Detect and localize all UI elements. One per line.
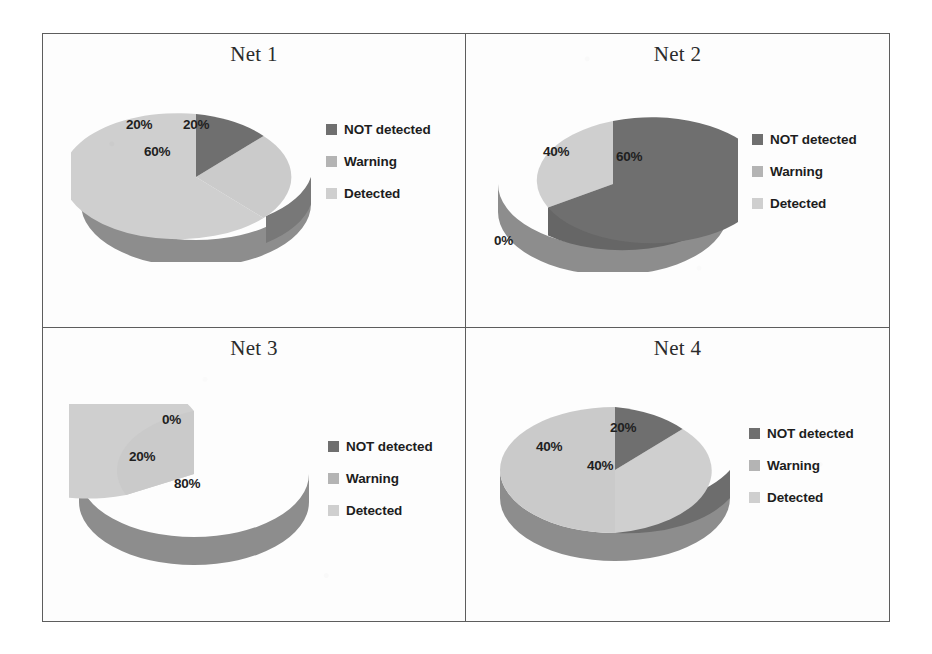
pie-label-detected: 40% [587, 458, 613, 473]
legend-net-1: NOT detected Warning Detected [326, 122, 431, 218]
legend-label: Detected [770, 196, 826, 211]
legend-item-detected[interactable]: Detected [752, 196, 857, 211]
pie-chart-net-4: 20% 40% 40% [490, 392, 740, 562]
pie-label-warning: 20% [129, 449, 155, 464]
panel-title-net-4: Net 4 [466, 336, 889, 361]
legend-item-warning[interactable]: Warning [752, 164, 857, 179]
legend-label: NOT detected [346, 439, 433, 454]
legend-swatch-icon [326, 124, 337, 135]
legend-swatch-icon [326, 156, 337, 167]
pie-label-detected: 0% [494, 233, 513, 248]
panel-net-2: Net 2 60% 40% 0% NOT detected [466, 34, 889, 328]
panel-net-1: Net 1 20% 20% 60% [43, 34, 466, 328]
legend-label: Warning [767, 458, 820, 473]
legend-item-warning[interactable]: Warning [749, 458, 854, 473]
pie-label-warning: 40% [543, 144, 569, 159]
panel-net-4: Net 4 20% 40% 40% [466, 328, 889, 622]
pie-svg-net-2 [488, 102, 738, 272]
legend-item-detected[interactable]: Detected [328, 503, 433, 518]
pie-label-warning: 20% [126, 117, 152, 132]
legend-swatch-icon [752, 166, 763, 177]
panel-title-net-3: Net 3 [43, 336, 465, 361]
legend-swatch-icon [328, 505, 339, 516]
pie-label-not-detected: 60% [616, 149, 642, 164]
legend-label: Warning [346, 471, 399, 486]
pie-label-not-detected: 20% [183, 117, 209, 132]
legend-net-2: NOT detected Warning Detected [752, 132, 857, 228]
legend-label: Warning [344, 154, 397, 169]
legend-item-not-detected[interactable]: NOT detected [749, 426, 854, 441]
pie-chart-net-3: 0% 20% 80% [69, 404, 319, 574]
legend-net-4: NOT detected Warning Detected [749, 426, 854, 522]
chart-area-net-1: 20% 20% 60% NOT detected Warning Detecte… [43, 70, 465, 327]
legend-swatch-icon [752, 198, 763, 209]
legend-swatch-icon [326, 188, 337, 199]
figure-frame: Net 1 20% 20% 60% [42, 33, 890, 622]
panel-title-net-1: Net 1 [43, 42, 465, 67]
legend-item-not-detected[interactable]: NOT detected [328, 439, 433, 454]
legend-label: Detected [344, 186, 400, 201]
legend-swatch-icon [752, 134, 763, 145]
legend-item-not-detected[interactable]: NOT detected [326, 122, 431, 137]
legend-label: Detected [767, 490, 823, 505]
legend-swatch-icon [328, 473, 339, 484]
legend-item-warning[interactable]: Warning [328, 471, 433, 486]
pie-chart-net-2: 60% 40% 0% [488, 102, 738, 272]
legend-label: Warning [770, 164, 823, 179]
pie-label-detected: 60% [144, 144, 170, 159]
pie-label-warning: 40% [536, 439, 562, 454]
legend-item-detected[interactable]: Detected [326, 186, 431, 201]
legend-swatch-icon [328, 441, 339, 452]
legend-item-not-detected[interactable]: NOT detected [752, 132, 857, 147]
legend-item-warning[interactable]: Warning [326, 154, 431, 169]
legend-label: NOT detected [770, 132, 857, 147]
chart-area-net-2: 60% 40% 0% NOT detected Warning Detected [466, 70, 889, 327]
legend-item-detected[interactable]: Detected [749, 490, 854, 505]
panel-title-net-2: Net 2 [466, 42, 889, 67]
legend-net-3: NOT detected Warning Detected [328, 439, 433, 535]
pie-label-not-detected: 20% [610, 420, 636, 435]
pie-chart-net-1: 20% 20% 60% [71, 92, 321, 262]
pie-label-detected: 80% [174, 476, 200, 491]
legend-swatch-icon [749, 460, 760, 471]
legend-label: NOT detected [767, 426, 854, 441]
legend-label: NOT detected [344, 122, 431, 137]
chart-area-net-3: 0% 20% 80% NOT detected Warning Detected [43, 364, 465, 622]
chart-area-net-4: 20% 40% 40% NOT detected Warning Detecte… [466, 364, 889, 622]
legend-label: Detected [346, 503, 402, 518]
pie-label-not-detected: 0% [162, 412, 181, 427]
legend-swatch-icon [749, 428, 760, 439]
pie-svg-net-4 [490, 392, 740, 562]
panel-net-3: Net 3 0% 20% 80% NOT d [43, 328, 466, 622]
legend-swatch-icon [749, 492, 760, 503]
